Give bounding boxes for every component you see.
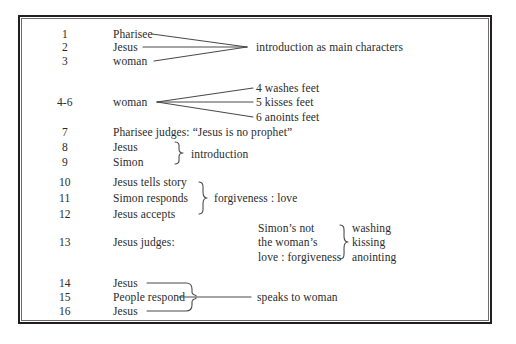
row-number: 2	[62, 41, 68, 54]
row-number: 13	[59, 236, 71, 249]
row-label-simon-responds: Simon responds	[113, 192, 188, 205]
row-label-jesus-14: Jesus	[113, 277, 138, 290]
row-label-jesus: Jesus	[113, 41, 138, 54]
row-label-simon-9: Simon	[113, 156, 144, 169]
annotation-forgiveness-love: forgiveness : love	[214, 192, 297, 205]
annotation-washes-feet: 4 washes feet	[256, 82, 319, 95]
annotation-kissing: kissing	[352, 236, 385, 249]
annotation-anointing: anointing	[352, 251, 396, 264]
row-number: 9	[62, 156, 68, 169]
row-number: 15	[59, 291, 71, 304]
row-label-woman-actions: woman	[113, 96, 147, 109]
row-number: 14	[59, 277, 71, 290]
annotation-washing: washing	[352, 222, 391, 235]
annotation-introduction: introduction	[191, 148, 248, 161]
annotation-love-forgiveness: love : forgiveness	[258, 251, 341, 264]
annotation-speaks-to-woman: speaks to woman	[257, 291, 338, 304]
annotation-kisses-feet: 5 kisses feet	[256, 96, 314, 109]
row-label-pharisee-judges: Pharisee judges: “Jesus is no prophet”	[113, 126, 292, 139]
row-number: 8	[62, 141, 68, 154]
annotation-simons-not: Simon’s not	[258, 222, 314, 235]
diagram-root: 1 2 3 4-6 7 8 9 10 11 12 13 14 15 16 Pha…	[0, 0, 516, 344]
row-label-pharisee: Pharisee	[113, 28, 153, 41]
row-number: 4-6	[57, 96, 73, 109]
row-label-jesus-tells: Jesus tells story	[113, 176, 187, 189]
row-number: 1	[62, 28, 68, 41]
annotation-the-womans: the woman’s	[258, 236, 318, 249]
row-number: 16	[59, 305, 71, 318]
row-number: 11	[59, 192, 70, 205]
row-label-jesus-16: Jesus	[113, 305, 138, 318]
row-number: 10	[59, 176, 71, 189]
row-number: 3	[62, 55, 68, 68]
diagram-frame	[18, 15, 492, 324]
row-label-jesus-accepts: Jesus accepts	[113, 208, 175, 221]
row-label-jesus-judges: Jesus judges:	[113, 236, 175, 249]
row-label-people-respond: People respond	[113, 291, 185, 304]
row-number: 7	[62, 126, 68, 139]
row-label-jesus-8: Jesus	[113, 141, 138, 154]
row-label-woman: woman	[113, 55, 147, 68]
annotation-anoints-feet: 6 anoints feet	[256, 111, 319, 124]
row-number: 12	[59, 208, 71, 221]
annotation-introduction-main-characters: introduction as main characters	[256, 41, 403, 54]
